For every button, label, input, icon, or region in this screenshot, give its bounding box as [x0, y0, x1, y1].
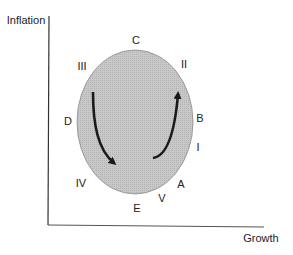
y-axis-label: Inflation	[7, 14, 46, 26]
phase-label-iii: III	[77, 60, 86, 72]
y-axis	[48, 16, 49, 225]
diagram-canvas	[0, 0, 293, 255]
phase-label-v: V	[158, 192, 165, 204]
phase-label-ii: II	[181, 58, 187, 70]
label-c: C	[132, 34, 140, 46]
x-axis	[48, 225, 264, 227]
phase-label-iv: IV	[76, 177, 86, 189]
label-a: A	[177, 178, 184, 190]
label-b: B	[196, 112, 203, 124]
label-e: E	[133, 202, 140, 214]
phase-label-i: I	[196, 141, 199, 153]
label-d: D	[64, 115, 72, 127]
x-axis-label: Growth	[243, 232, 278, 244]
